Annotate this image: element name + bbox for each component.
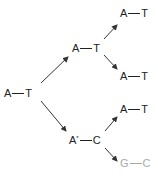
- base-right: T: [93, 42, 100, 54]
- bond-dash: [128, 13, 140, 14]
- arrow-root-to-gen1-top: [41, 57, 68, 83]
- base-left: A: [72, 42, 79, 54]
- arrow-gen1-top-to-gen2-2: [104, 55, 117, 69]
- base-right: T: [141, 103, 148, 115]
- arrow-gen1-bottom-to-gen2-3: [105, 117, 117, 131]
- tautomer-mark: *: [76, 135, 78, 141]
- bond-dash: [12, 93, 24, 94]
- base-left: A: [120, 103, 127, 115]
- base-right: T: [25, 87, 32, 99]
- base-left: G: [120, 157, 129, 169]
- base-pair-gen1-top: AT: [72, 42, 100, 54]
- base-pair-gen1-bottom: A*C: [69, 134, 101, 146]
- base-pair-gen2-4-mutant: GC: [120, 157, 151, 169]
- base-pair-gen2-3: AT: [120, 103, 148, 115]
- arrow-gen1-bottom-to-gen2-4: [105, 148, 117, 161]
- base-pair-gen2-2: AT: [120, 70, 148, 82]
- base-right: C: [93, 134, 101, 146]
- base-pair-root: AT: [4, 87, 32, 99]
- base-right: T: [141, 70, 148, 82]
- base-right: T: [141, 7, 148, 19]
- bond-dash: [80, 140, 92, 141]
- base-right: C: [143, 157, 151, 169]
- base-pair-gen2-1: AT: [120, 7, 148, 19]
- bond-dash: [128, 76, 140, 77]
- bond-dash: [128, 109, 140, 110]
- bond-dash: [130, 163, 142, 164]
- base-left: A: [4, 87, 11, 99]
- base-left: A: [120, 70, 127, 82]
- bond-dash: [80, 48, 92, 49]
- arrow-gen1-top-to-gen2-1: [104, 25, 117, 39]
- base-left: A: [120, 7, 127, 19]
- arrow-root-to-gen1-bottom: [41, 101, 66, 131]
